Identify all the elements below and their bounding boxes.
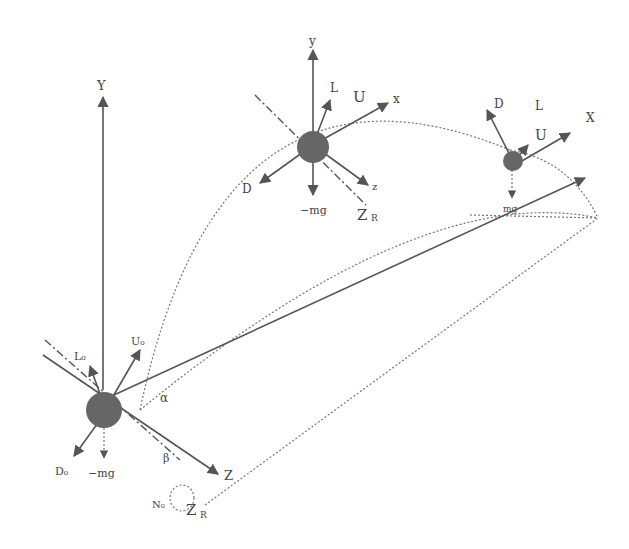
end-frame: D L U X mg [487,97,595,214]
label-end-l: L [535,99,543,113]
label-mid-x: x [393,92,400,106]
trajectory-curves [140,121,598,505]
label-origin-l0: L₀ [74,350,86,363]
mid-frame: y L U x D z −mg Z R [242,34,400,224]
label-origin-z: Z [224,468,233,483]
label-origin-n0: N₀ [152,499,165,510]
ball-origin [86,392,122,428]
label-mid-zr_sub: R [371,213,378,223]
label-origin-zr_sub: R [200,510,207,520]
label-origin-zr: Z [186,501,196,519]
label-mid-u: U [353,88,366,106]
label-mid-y: y [308,34,316,48]
label-origin-u0: U₀ [131,335,145,348]
label-mid-zr: Z [357,206,367,224]
label-end-u: U [535,127,547,143]
label-mid-d: D [242,182,252,196]
label-origin-alpha: α [160,391,168,405]
label-end-d: D [494,97,504,111]
trajectory-diagram: Y Z L₀ U₀ D₀ −mg α β N₀ Z R y L U x D z … [0,0,629,549]
label-origin-beta: β [163,452,169,465]
label-origin-d0: D₀ [55,465,69,478]
ball-end [503,151,523,171]
label-end-x: X [586,111,595,125]
ball-mid [297,131,329,163]
label-mid-mg: −mg [300,204,327,217]
label-end-mg: mg [503,204,518,214]
label-origin-y: Y [96,78,106,93]
label-mid-z: z [372,181,377,192]
label-origin-mg: −mg [88,467,115,480]
label-mid-l: L [330,81,338,95]
